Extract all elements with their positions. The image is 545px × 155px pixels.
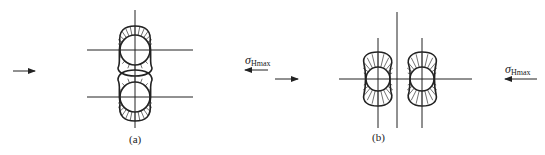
hatch-line (141, 111, 144, 119)
panel-a-stress-label: σHmax (245, 53, 270, 68)
hatch-line (130, 112, 132, 121)
hatch-line (144, 32, 148, 38)
hatch-line (130, 27, 132, 36)
hatch-line (372, 91, 375, 104)
hatch-line (126, 29, 129, 37)
hatch-line (141, 29, 144, 37)
panel-b: σHmax (b) (275, 12, 537, 144)
hatch-line (138, 27, 140, 36)
panel-b-stress-label: σHmax (505, 62, 530, 77)
hatch-line (416, 91, 419, 104)
hatch-line (381, 91, 384, 104)
panel-a: σHmax (a) (13, 10, 270, 146)
hatch-line (372, 54, 375, 67)
hatch-line (425, 54, 428, 67)
hatch-line (122, 109, 126, 115)
hatch-line (138, 112, 140, 121)
hatch-line (122, 32, 126, 38)
hatch-line (126, 111, 129, 119)
hatch-line (144, 109, 148, 115)
figure-canvas: σHmax (a) σHmax (b) (0, 0, 545, 155)
hatch-line (416, 54, 419, 67)
panel-a-caption: (a) (129, 133, 142, 146)
panel-b-caption: (b) (372, 131, 385, 144)
hatch-line (381, 54, 384, 67)
hatch-line (425, 91, 428, 104)
